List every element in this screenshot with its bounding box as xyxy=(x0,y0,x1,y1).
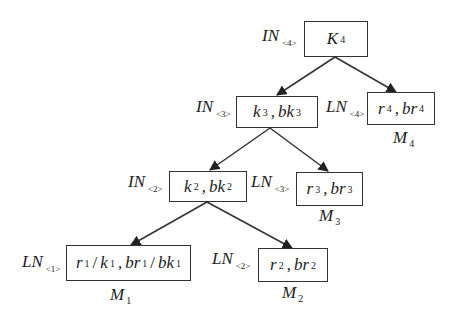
box-subscript: 2 xyxy=(227,181,232,192)
box-symbol: br xyxy=(402,99,417,119)
label-index: <2> xyxy=(148,184,163,194)
box-subscript: 3 xyxy=(348,184,353,195)
box-symbol: r xyxy=(270,255,277,275)
label-name: LN xyxy=(251,172,272,191)
separator: , xyxy=(118,253,122,273)
slash: / xyxy=(93,253,98,273)
separator: , xyxy=(271,102,275,122)
box-subscript: 3 xyxy=(296,107,301,118)
node-box-root: K4 xyxy=(304,21,368,57)
box-symbol: k xyxy=(184,177,192,197)
box-subscript: 3 xyxy=(263,107,268,118)
node-type-label-in4: IN<4> xyxy=(262,26,297,47)
label-index: <4> xyxy=(282,38,297,48)
label-index: <3> xyxy=(275,184,290,194)
separator: , xyxy=(202,177,206,197)
memory-subscript: 3 xyxy=(335,216,340,227)
edge-root-in3 xyxy=(277,57,335,95)
box-subscript: 2 xyxy=(311,260,316,271)
edge-root-ln4 xyxy=(335,57,396,92)
edge-in2-ln1 xyxy=(131,202,207,245)
edge-in3-ln3 xyxy=(270,128,328,171)
box-subscript: 2 xyxy=(194,181,199,192)
edge-in3-in2 xyxy=(210,128,270,170)
box-symbol: k xyxy=(253,102,261,122)
box-symbol: r xyxy=(307,179,314,199)
node-box-ln4: r4,br4 xyxy=(367,92,435,125)
slash: / xyxy=(150,253,155,273)
node-box-ln2: r2,br2 xyxy=(258,248,328,282)
box-symbol: br xyxy=(294,255,309,275)
label-name: LN xyxy=(22,252,43,271)
node-box-in2: k2,bk2 xyxy=(169,171,247,202)
tree-diagram: IN<4> K4 IN<3> k3,bk3 LN<4> r4,br4 M4 IN… xyxy=(0,0,455,315)
box-subscript: 1 xyxy=(110,258,115,269)
memory-label-m1: M1 xyxy=(110,285,131,306)
memory-label-m2: M2 xyxy=(282,283,303,304)
box-symbol: bk xyxy=(278,102,294,122)
label-name: LN xyxy=(212,249,233,268)
memory-symbol: M xyxy=(319,206,333,225)
box-symbol: r xyxy=(76,253,83,273)
box-subscript: 4 xyxy=(419,103,424,114)
memory-subscript: 4 xyxy=(409,138,414,149)
box-subscript: 1 xyxy=(176,258,181,269)
node-type-label-ln1: LN<1> xyxy=(22,252,60,273)
label-index: <3> xyxy=(216,109,231,119)
box-subscript: 4 xyxy=(340,34,345,45)
box-subscript: 1 xyxy=(85,258,90,269)
memory-symbol: M xyxy=(393,128,407,147)
node-box-ln1: r1/k1,br1/bk1 xyxy=(66,245,191,281)
box-symbol: br xyxy=(330,179,345,199)
label-index: <4> xyxy=(350,109,365,119)
memory-subscript: 2 xyxy=(298,293,303,304)
label-name: IN xyxy=(128,172,145,191)
box-symbol: k xyxy=(100,253,108,273)
separator: , xyxy=(395,99,399,119)
box-subscript: 1 xyxy=(142,258,147,269)
node-type-label-ln2: LN<2> xyxy=(212,249,250,270)
node-type-label-ln3: LN<3> xyxy=(251,172,289,193)
label-index: <1> xyxy=(46,264,61,274)
separator: , xyxy=(323,179,327,199)
edge-in2-ln2 xyxy=(207,202,292,248)
node-type-label-in3: IN<3> xyxy=(196,97,231,118)
label-name: LN xyxy=(326,97,347,116)
label-index: <2> xyxy=(236,261,251,271)
label-name: IN xyxy=(262,26,279,45)
memory-symbol: M xyxy=(282,283,296,302)
memory-symbol: M xyxy=(110,285,124,304)
box-symbol: bk xyxy=(209,177,225,197)
box-symbol: K xyxy=(327,29,338,49)
node-type-label-ln4: LN<4> xyxy=(326,97,364,118)
box-subscript: 4 xyxy=(387,103,392,114)
memory-label-m3: M3 xyxy=(319,206,340,227)
node-box-ln3: r3,br3 xyxy=(296,172,363,206)
box-subscript: 2 xyxy=(279,260,284,271)
node-type-label-in2: IN<2> xyxy=(128,172,163,193)
box-symbol: r xyxy=(378,99,385,119)
node-box-in3: k3,bk3 xyxy=(236,96,318,128)
separator: , xyxy=(287,255,291,275)
memory-subscript: 1 xyxy=(126,295,131,306)
label-name: IN xyxy=(196,97,213,116)
box-symbol: bk xyxy=(158,253,174,273)
memory-label-m4: M4 xyxy=(393,128,414,149)
box-subscript: 3 xyxy=(315,184,320,195)
box-symbol: br xyxy=(125,253,140,273)
